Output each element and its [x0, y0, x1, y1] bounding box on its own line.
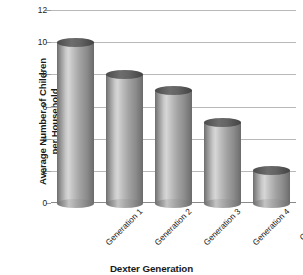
bar — [106, 74, 143, 203]
y-axis-tick-label: 10 — [23, 38, 47, 46]
bar-body — [57, 42, 94, 203]
plot-area — [51, 10, 296, 203]
x-axis-tick-label: Generation 3 — [202, 207, 243, 248]
x-axis-title: Dexter Generation — [0, 263, 303, 274]
x-axis-tick-label: Generation 2 — [153, 207, 194, 248]
x-axis-tick-label: Generation 4 — [251, 207, 292, 248]
bar — [204, 123, 241, 203]
bar-top-ellipse — [155, 86, 192, 95]
bar-body — [155, 90, 192, 203]
bar-chart: Average Number of Children per Household… — [0, 0, 303, 275]
y-axis-tick-label: 8 — [23, 70, 47, 78]
y-axis-tick-label: 2 — [23, 167, 47, 175]
y-axis-tick-label: 0 — [23, 199, 47, 207]
gridline — [51, 10, 296, 11]
y-axis-tick-label: 6 — [23, 103, 47, 111]
bar — [253, 171, 290, 203]
bar — [57, 42, 94, 203]
bar-top-ellipse — [106, 70, 143, 79]
bar-top-ellipse — [57, 38, 94, 47]
x-axis-tick-label: Generation 5 (current) — [298, 207, 303, 256]
x-axis-tick-label: Generation 1 — [104, 207, 145, 248]
y-axis-tick-label: 12 — [23, 6, 47, 14]
y-axis-tick-label: 4 — [23, 135, 47, 143]
bar-body — [106, 74, 143, 203]
bar-bottom-ellipse — [57, 199, 94, 208]
bar — [155, 90, 192, 203]
bar-body — [204, 123, 241, 203]
